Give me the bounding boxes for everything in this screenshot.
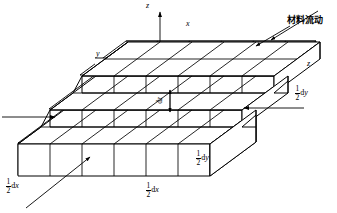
dimension-half-dx-bottom: 1 2 dx <box>146 182 159 199</box>
figure-root: z x y z 材料流动 dz 1 2 dx 1 2 dx 1 2 dy 1 2… <box>0 0 337 213</box>
dz-variable: z <box>155 97 164 100</box>
dimension-half-dy-right: 1 2 dy <box>295 85 308 102</box>
terraced-solid <box>18 42 320 176</box>
dimension-half-dy-center: 1 2 dy <box>196 150 209 167</box>
stepped-block-diagram <box>0 0 337 213</box>
dimension-variable: x <box>155 185 159 194</box>
axis-label-z-vertical: z <box>146 2 149 10</box>
axis-label-x: x <box>186 20 190 28</box>
dz-thickness-label: dz <box>155 97 164 104</box>
dimension-variable: x <box>15 181 19 190</box>
axis-label-z-depth: z <box>307 60 310 68</box>
dimension-half-dx-left: 1 2 dx <box>6 178 19 195</box>
axis-label-y: y <box>96 50 100 58</box>
dz-unit: d <box>155 100 164 104</box>
dimension-variable: y <box>304 88 308 97</box>
material-flow-label: 材料流动 <box>287 16 323 25</box>
dimension-variable: y <box>205 153 209 162</box>
